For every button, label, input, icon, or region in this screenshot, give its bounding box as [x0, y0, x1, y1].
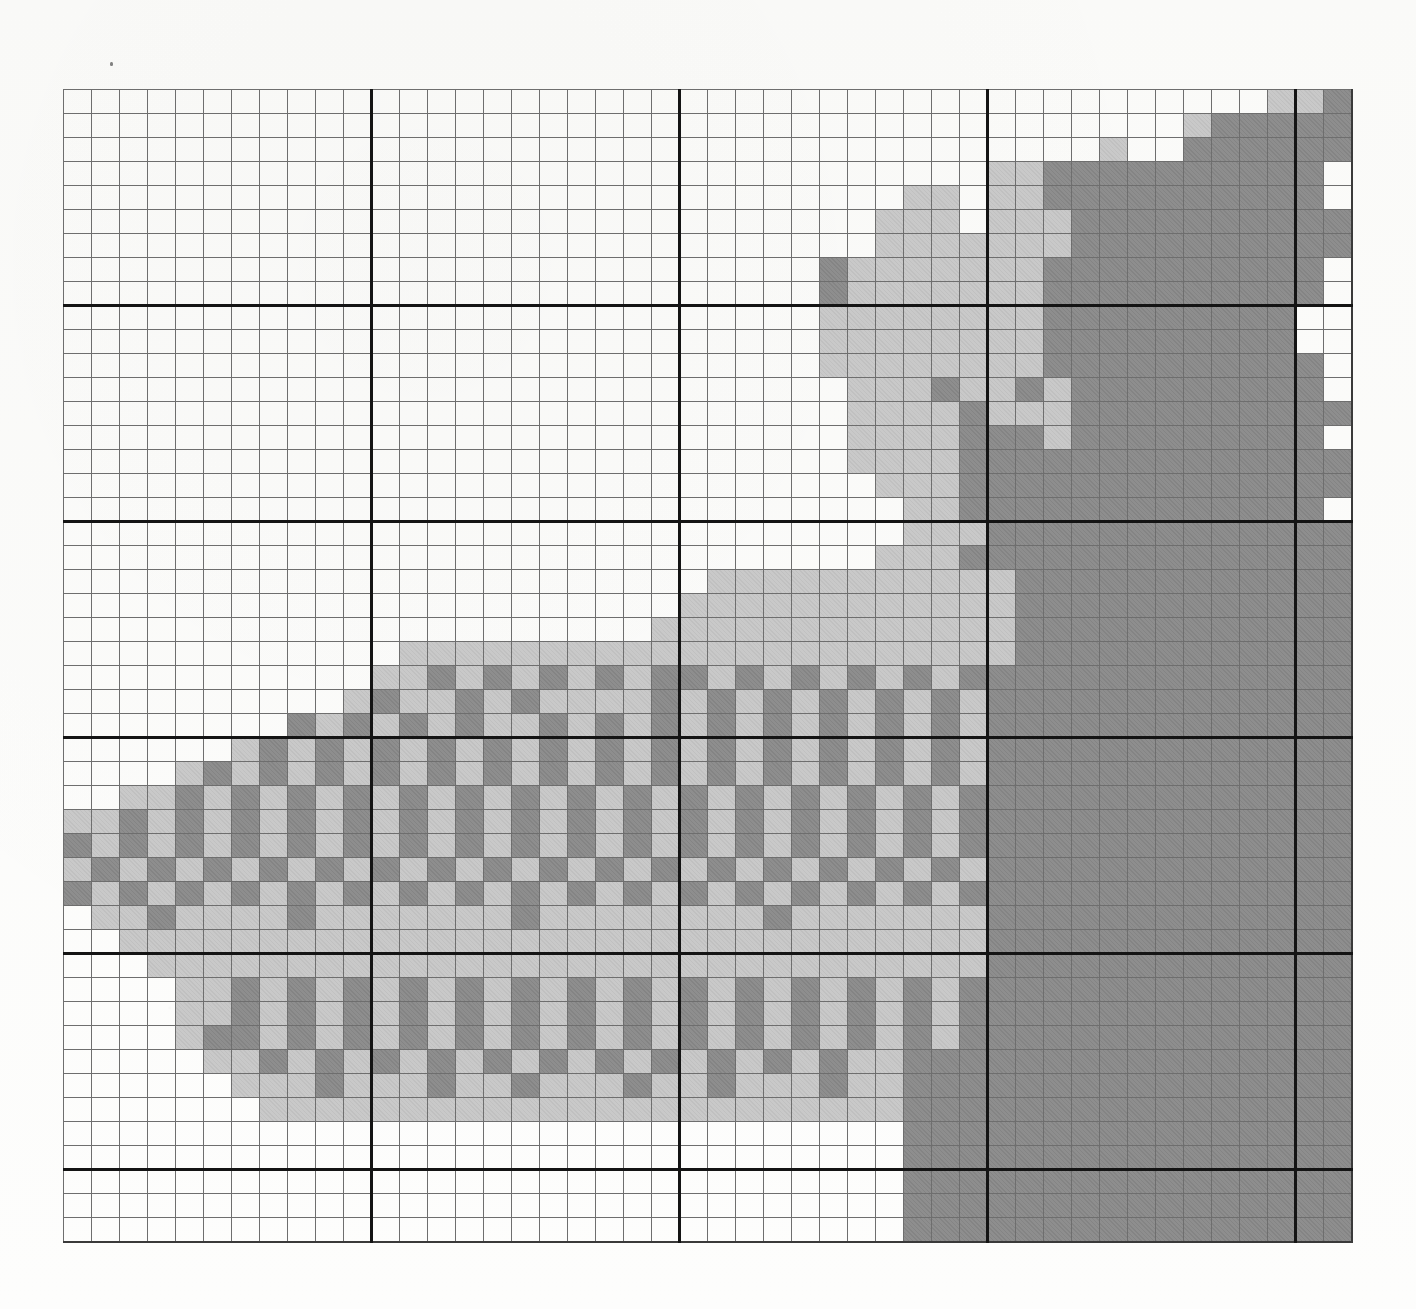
- chart-cell[interactable]: [932, 186, 960, 210]
- chart-cell[interactable]: [596, 498, 624, 522]
- chart-cell[interactable]: [288, 426, 316, 450]
- chart-cell[interactable]: [428, 930, 456, 954]
- chart-cell[interactable]: [92, 642, 120, 666]
- chart-cell[interactable]: [708, 786, 736, 810]
- chart-cell[interactable]: [1044, 474, 1072, 498]
- chart-cell[interactable]: [344, 306, 372, 330]
- chart-cell[interactable]: [176, 738, 204, 762]
- chart-cell[interactable]: [1044, 546, 1072, 570]
- chart-cell[interactable]: [820, 1002, 848, 1026]
- chart-cell[interactable]: [568, 1122, 596, 1146]
- chart-cell[interactable]: [568, 930, 596, 954]
- chart-cell[interactable]: [960, 762, 988, 786]
- chart-cell[interactable]: [792, 1146, 820, 1170]
- chart-cell[interactable]: [1016, 1074, 1044, 1098]
- chart-cell[interactable]: [1296, 402, 1324, 426]
- chart-cell[interactable]: [1072, 570, 1100, 594]
- chart-cell[interactable]: [148, 162, 176, 186]
- chart-cell[interactable]: [316, 546, 344, 570]
- chart-cell[interactable]: [1156, 138, 1184, 162]
- chart-cell[interactable]: [932, 594, 960, 618]
- chart-cell[interactable]: [1240, 498, 1268, 522]
- chart-cell[interactable]: [344, 426, 372, 450]
- chart-cell[interactable]: [260, 1122, 288, 1146]
- chart-cell[interactable]: [1156, 546, 1184, 570]
- chart-cell[interactable]: [456, 474, 484, 498]
- chart-cell[interactable]: [1044, 930, 1072, 954]
- chart-cell[interactable]: [1100, 162, 1128, 186]
- chart-cell[interactable]: [260, 498, 288, 522]
- chart-cell[interactable]: [932, 1170, 960, 1194]
- chart-cell[interactable]: [176, 426, 204, 450]
- chart-cell[interactable]: [372, 1218, 400, 1242]
- chart-cell[interactable]: [176, 930, 204, 954]
- chart-cell[interactable]: [820, 714, 848, 738]
- chart-cell[interactable]: [932, 1146, 960, 1170]
- chart-cell[interactable]: [1100, 90, 1128, 114]
- chart-cell[interactable]: [1072, 858, 1100, 882]
- chart-cell[interactable]: [1072, 954, 1100, 978]
- chart-cell[interactable]: [344, 690, 372, 714]
- chart-cell[interactable]: [904, 330, 932, 354]
- chart-cell[interactable]: [1324, 1146, 1352, 1170]
- chart-cell[interactable]: [820, 834, 848, 858]
- chart-cell[interactable]: [1212, 402, 1240, 426]
- chart-cell[interactable]: [988, 210, 1016, 234]
- chart-cell[interactable]: [1296, 762, 1324, 786]
- chart-cell[interactable]: [316, 282, 344, 306]
- chart-cell[interactable]: [92, 1194, 120, 1218]
- chart-cell[interactable]: [400, 1146, 428, 1170]
- chart-cell[interactable]: [820, 1194, 848, 1218]
- chart-cell[interactable]: [988, 834, 1016, 858]
- chart-cell[interactable]: [624, 1170, 652, 1194]
- chart-cell[interactable]: [848, 1050, 876, 1074]
- chart-cell[interactable]: [1016, 978, 1044, 1002]
- chart-cell[interactable]: [1268, 378, 1296, 402]
- chart-cell[interactable]: [316, 594, 344, 618]
- chart-cell[interactable]: [1128, 138, 1156, 162]
- chart-cell[interactable]: [176, 1098, 204, 1122]
- chart-cell[interactable]: [1324, 426, 1352, 450]
- chart-cell[interactable]: [904, 114, 932, 138]
- chart-cell[interactable]: [1184, 186, 1212, 210]
- chart-cell[interactable]: [988, 714, 1016, 738]
- chart-cell[interactable]: [680, 1098, 708, 1122]
- chart-cell[interactable]: [596, 306, 624, 330]
- chart-cell[interactable]: [400, 282, 428, 306]
- chart-cell[interactable]: [288, 258, 316, 282]
- chart-cell[interactable]: [372, 1074, 400, 1098]
- chart-cell[interactable]: [1100, 978, 1128, 1002]
- chart-cell[interactable]: [568, 450, 596, 474]
- chart-cell[interactable]: [904, 738, 932, 762]
- chart-cell[interactable]: [1016, 330, 1044, 354]
- chart-cell[interactable]: [232, 306, 260, 330]
- chart-cell[interactable]: [1212, 858, 1240, 882]
- chart-cell[interactable]: [288, 978, 316, 1002]
- chart-cell[interactable]: [848, 1194, 876, 1218]
- chart-cell[interactable]: [1240, 786, 1268, 810]
- chart-cell[interactable]: [204, 762, 232, 786]
- chart-cell[interactable]: [764, 138, 792, 162]
- chart-cell[interactable]: [92, 906, 120, 930]
- chart-cell[interactable]: [400, 738, 428, 762]
- chart-cell[interactable]: [232, 1122, 260, 1146]
- chart-cell[interactable]: [1268, 786, 1296, 810]
- chart-cell[interactable]: [932, 1074, 960, 1098]
- chart-cell[interactable]: [148, 330, 176, 354]
- chart-cell[interactable]: [1016, 1122, 1044, 1146]
- chart-cell[interactable]: [820, 402, 848, 426]
- chart-cell[interactable]: [568, 306, 596, 330]
- chart-cell[interactable]: [120, 1074, 148, 1098]
- chart-cell[interactable]: [876, 426, 904, 450]
- chart-cell[interactable]: [428, 114, 456, 138]
- chart-cell[interactable]: [736, 570, 764, 594]
- chart-cell[interactable]: [708, 834, 736, 858]
- chart-cell[interactable]: [1156, 906, 1184, 930]
- chart-cell[interactable]: [764, 882, 792, 906]
- chart-cell[interactable]: [1100, 546, 1128, 570]
- chart-cell[interactable]: [820, 306, 848, 330]
- chart-cell[interactable]: [568, 810, 596, 834]
- chart-cell[interactable]: [1072, 354, 1100, 378]
- chart-cell[interactable]: [92, 114, 120, 138]
- chart-cell[interactable]: [512, 402, 540, 426]
